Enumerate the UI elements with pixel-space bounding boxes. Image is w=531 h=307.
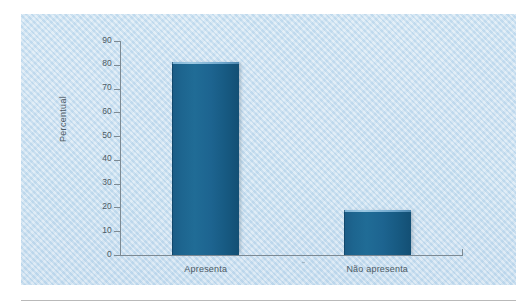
bar-left-edge (344, 210, 345, 255)
y-axis-line (120, 41, 121, 256)
y-tick-mark (114, 207, 120, 208)
x-axis-mid-mark (302, 262, 305, 263)
y-tick-mark (114, 41, 120, 42)
y-tick-label: 30 (68, 178, 112, 187)
y-tick-row: 0 (21, 255, 112, 256)
bar-1 (172, 62, 239, 255)
x-axis-end-tick (462, 249, 463, 256)
bar-2 (344, 210, 411, 255)
y-tick-mark (114, 160, 120, 161)
figure-container: Percentual 0102030405060708090 Apresenta… (0, 0, 531, 307)
y-tick-label: 0 (68, 250, 112, 259)
y-tick-mark (114, 184, 120, 185)
y-tick-label: 90 (68, 36, 112, 45)
y-tick-mark (114, 136, 120, 137)
x-category-label-2: Não apresenta (297, 264, 457, 274)
y-tick-mark (114, 231, 120, 232)
x-category-label-1: Apresenta (126, 264, 286, 274)
y-tick-mark (114, 112, 120, 113)
y-tick-row: 70 (21, 88, 112, 89)
y-tick-label: 40 (68, 154, 112, 163)
y-tick-row: 40 (21, 159, 112, 160)
y-tick-label: 60 (68, 107, 112, 116)
y-tick-row: 60 (21, 112, 112, 113)
y-tick-row: 90 (21, 41, 112, 42)
y-tick-row: 30 (21, 183, 112, 184)
y-tick-row: 80 (21, 64, 112, 65)
y-tick-mark (114, 255, 120, 256)
x-axis-line (120, 255, 463, 256)
bar-top-highlight (172, 62, 239, 64)
y-tick-row: 10 (21, 231, 112, 232)
y-tick-row: 20 (21, 207, 112, 208)
y-tick-mark (114, 65, 120, 66)
y-tick-label: 80 (68, 59, 112, 68)
y-tick-mark (114, 89, 120, 90)
y-tick-row: 50 (21, 136, 112, 137)
y-tick-label: 70 (68, 83, 112, 92)
bar-top-highlight (344, 210, 411, 212)
y-tick-label: 50 (68, 131, 112, 140)
bottom-divider-rule (21, 300, 516, 301)
y-tick-label: 20 (68, 202, 112, 211)
chart-panel: Percentual 0102030405060708090 Apresenta… (21, 14, 516, 285)
y-tick-label: 10 (68, 226, 112, 235)
bar-left-edge (172, 62, 173, 255)
